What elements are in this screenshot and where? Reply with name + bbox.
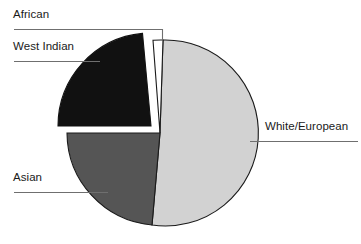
pie-label-white-european: White/European [265,120,348,133]
pie-slices [58,33,258,226]
pie-chart-figure: African West Indian Asian White/European [0,0,361,244]
pie-label-west-indian: West Indian [13,40,74,53]
pie-label-african: African [13,8,49,21]
pie-label-asian: Asian [13,171,42,184]
pie-slice-white-european[interactable] [152,40,258,226]
pie-slice-asian[interactable] [67,133,160,225]
